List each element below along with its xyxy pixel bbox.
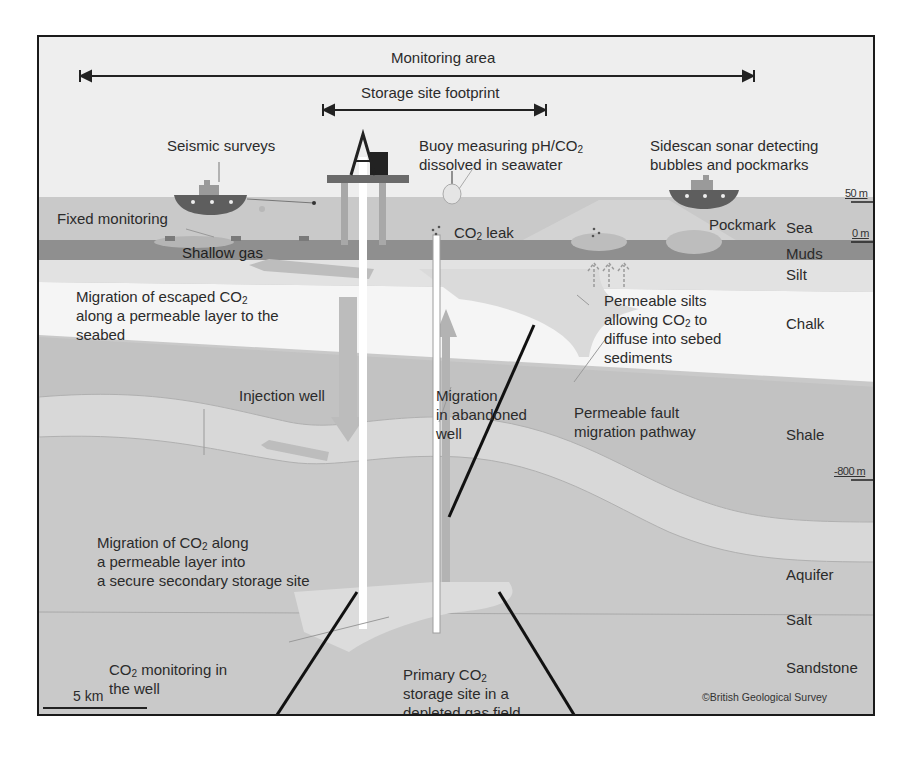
shallow-gas-label: Shallow gas	[182, 243, 263, 262]
abandoned-well-label: Migration in abandoned well	[436, 386, 527, 443]
layer-label-silt: Silt	[786, 266, 807, 283]
layer-label-chalk: Chalk	[786, 315, 824, 332]
primary-storage-label: Primary CO2 storage site in a depleted g…	[403, 665, 521, 716]
layer-label-shale: Shale	[786, 426, 824, 443]
copyright-label: ©British Geological Survey	[702, 691, 827, 703]
sidescan-sonar-label: Sidescan sonar detecting bubbles and poc…	[650, 136, 818, 174]
pockmark-1	[571, 233, 627, 251]
co2-leak-label: CO2 leak	[454, 223, 514, 242]
permeable-fault-label: Permeable fault migration pathway	[574, 403, 696, 441]
layer-label-sea: Sea	[786, 219, 813, 236]
layer-label-muds: Muds	[786, 245, 823, 262]
scale-bar-label: 5 km	[73, 687, 103, 706]
fixed-monitoring-label: Fixed monitoring	[57, 209, 168, 228]
storage-footprint-label: Storage site footprint	[361, 83, 499, 102]
depth-marker-0m: 0 m	[852, 227, 869, 239]
monitoring-area-label: Monitoring area	[391, 48, 495, 67]
injection-well-label: Injection well	[239, 386, 325, 405]
depth-marker-800m: -800 m	[834, 465, 865, 477]
depth-marker-50m: 50 m	[845, 187, 867, 199]
layer-label-sandstone: Sandstone	[786, 659, 858, 676]
permeable-silts-label: Permeable silts allowing CO2 to diffuse …	[604, 291, 721, 367]
secondary-storage-label: Migration of CO2 along a permeable layer…	[97, 533, 310, 590]
injection-well	[359, 157, 367, 629]
layer-label-salt: Salt	[786, 611, 812, 628]
monitoring-well-label: CO2 monitoring in the well	[109, 660, 227, 698]
layer-label-aquifer: Aquifer	[786, 566, 834, 583]
diagram-frame: Monitoring area Storage site footprint S…	[37, 35, 875, 716]
pockmark-label: Pockmark	[709, 215, 776, 234]
escaped-co2-label: Migration of escaped CO2 along a permeab…	[76, 287, 279, 344]
seismic-surveys-label: Seismic surveys	[167, 136, 275, 155]
buoy-label: Buoy measuring pH/CO2 dissolved in seawa…	[419, 136, 583, 174]
